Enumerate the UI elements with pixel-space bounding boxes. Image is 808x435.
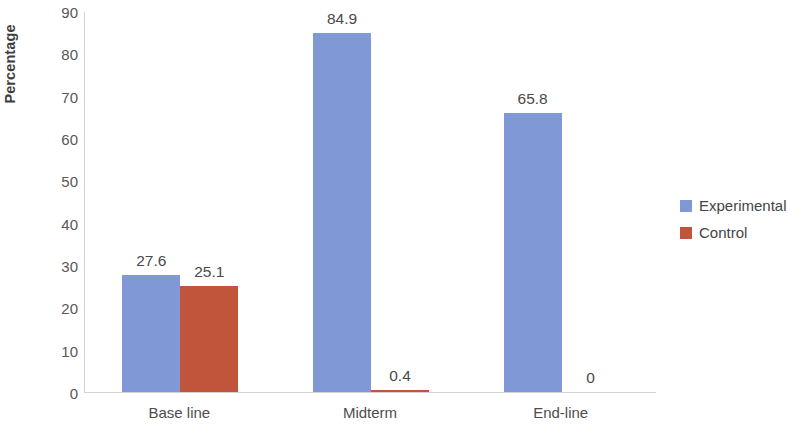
y-tick-label: 10: [32, 342, 78, 359]
bar-value-label: 65.8: [518, 90, 548, 108]
y-tick-label: 60: [32, 131, 78, 148]
chart-legend: ExperimentalControl: [680, 192, 808, 246]
legend-item[interactable]: Experimental: [680, 192, 808, 219]
bar-value-label: 0: [586, 369, 595, 387]
bar-chart: Percentage 9080706050403020100 27.625.18…: [0, 0, 808, 435]
y-tick-label: 80: [32, 46, 78, 63]
x-tick-label: Base line: [148, 404, 210, 421]
bar-experimental[interactable]: [313, 33, 371, 392]
y-tick-label: 40: [32, 215, 78, 232]
y-tick-label: 0: [32, 385, 78, 402]
legend-color-swatch: [680, 200, 692, 212]
y-tick-label: 20: [32, 300, 78, 317]
bar-value-label: 27.6: [136, 252, 166, 270]
x-tick-label: End-line: [533, 404, 588, 421]
bar-control[interactable]: [371, 390, 429, 392]
x-axis-tick-labels: Base lineMidtermEnd-line: [84, 404, 656, 432]
legend-item[interactable]: Control: [680, 219, 808, 246]
x-tick-label: Midterm: [343, 404, 397, 421]
bar-value-label: 84.9: [327, 10, 357, 28]
y-tick-label: 50: [32, 173, 78, 190]
plot-area: 27.625.184.90.465.80: [84, 12, 656, 393]
legend-label: Control: [699, 224, 747, 241]
y-axis-title: Percentage: [2, 0, 26, 144]
bar-value-label: 25.1: [194, 263, 224, 281]
legend-color-swatch: [680, 227, 692, 239]
legend-label: Experimental: [699, 197, 787, 214]
y-tick-label: 30: [32, 258, 78, 275]
y-tick-label: 90: [32, 4, 78, 21]
bar-experimental[interactable]: [122, 275, 180, 392]
y-tick-label: 70: [32, 88, 78, 105]
bar-experimental[interactable]: [504, 113, 562, 392]
bar-value-label: 0.4: [389, 367, 411, 385]
y-axis-tick-labels: 9080706050403020100: [26, 0, 78, 435]
bars-layer: 27.625.184.90.465.80: [85, 12, 656, 392]
bar-control[interactable]: [180, 286, 238, 392]
